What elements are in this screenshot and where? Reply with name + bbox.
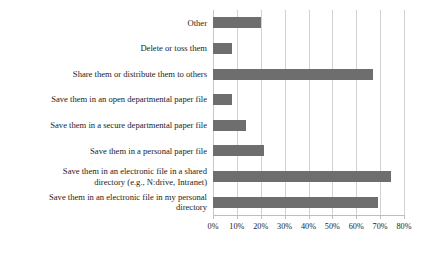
bar-row: [213, 87, 404, 113]
bar: [213, 120, 246, 131]
tick-label: 30%: [277, 221, 292, 232]
tick-label: 50%: [325, 221, 340, 232]
tick-label: 80%: [396, 221, 411, 232]
tick-mark: [380, 215, 381, 219]
category-axis-labels: Other Delete or toss them Share them or …: [0, 10, 211, 215]
x-axis-ticks: [213, 215, 404, 219]
bar: [213, 43, 232, 54]
bar-row: [213, 138, 404, 164]
tick-label: 70%: [373, 221, 388, 232]
bar: [213, 145, 264, 156]
tick-label: 10%: [229, 221, 244, 232]
bar-chart: Other Delete or toss them Share them or …: [0, 0, 432, 254]
category-label-personal-paper: Save them in a personal paper file: [0, 138, 211, 164]
bar: [213, 17, 261, 28]
bar-row: [213, 113, 404, 139]
bar: [213, 69, 373, 80]
tick-mark: [309, 215, 310, 219]
gridline-80pct: [404, 10, 405, 215]
category-label-open-departmental-paper: Save them in an open departmental paper …: [0, 87, 211, 113]
tick-mark: [237, 215, 238, 219]
x-axis-tick-labels: 0%10%20%30%40%50%60%70%80%: [213, 221, 404, 235]
tick-mark: [285, 215, 286, 219]
bar-row: [213, 61, 404, 87]
bar-row: [213, 36, 404, 62]
plot-area: [213, 10, 404, 215]
tick-mark: [356, 215, 357, 219]
tick-mark: [213, 215, 214, 219]
category-label-share-distribute: Share them or distribute them to others: [0, 61, 211, 87]
category-label-personal-electronic-directory: Save them in an electronic file in my pe…: [0, 189, 211, 215]
category-label-shared-electronic-directory: Save them in an electronic file in a sha…: [0, 164, 211, 190]
tick-label: 0%: [208, 221, 219, 232]
tick-label: 20%: [253, 221, 268, 232]
bar-row: [213, 164, 404, 190]
bar-row: [213, 189, 404, 215]
bar-series: [213, 10, 404, 215]
category-label-other: Other: [0, 10, 211, 36]
tick-label: 40%: [301, 221, 316, 232]
bar: [213, 171, 391, 182]
bar-row: [213, 10, 404, 36]
tick-label: 60%: [349, 221, 364, 232]
bar: [213, 197, 378, 208]
tick-mark: [261, 215, 262, 219]
category-label-secure-departmental-paper: Save them in a secure departmental paper…: [0, 113, 211, 139]
tick-mark: [332, 215, 333, 219]
tick-mark: [404, 215, 405, 219]
category-label-delete-or-toss: Delete or toss them: [0, 36, 211, 62]
bar: [213, 94, 232, 105]
